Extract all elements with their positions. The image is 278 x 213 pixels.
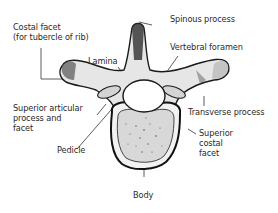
- label-costal-facet: Costal facet (for tubercle of rib): [13, 22, 89, 42]
- vertebral-foramen-hole: [123, 80, 165, 112]
- body-inner: [117, 109, 174, 162]
- label-lamina: Lamina: [88, 56, 117, 66]
- leader-superior-costal-facet: [188, 129, 196, 134]
- vertebra-diagram: Costal facet (for tubercle of rib) Spino…: [0, 0, 278, 213]
- leader-superior-articular: [97, 104, 106, 115]
- label-pedicle: Pedicle: [57, 145, 85, 155]
- label-spinous-process: Spinous process: [170, 14, 235, 24]
- label-superior-articular-process: Superior articular process and facet: [13, 103, 83, 133]
- spinous-shade: [132, 24, 144, 61]
- label-transverse-process: Transverse process: [188, 107, 264, 117]
- label-superior-costal-facet: Superior costal facet: [199, 128, 233, 158]
- label-vertebral-foramen: Vertebral foramen: [170, 42, 243, 52]
- label-body: Body: [133, 190, 153, 200]
